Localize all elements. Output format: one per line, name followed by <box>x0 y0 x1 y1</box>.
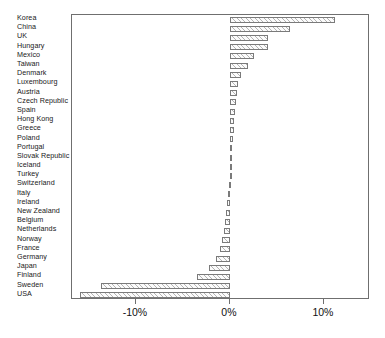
category-label-italy: Italy <box>17 189 30 197</box>
x-tick-label-2: 10% <box>312 306 333 318</box>
category-label-usa: USA <box>17 290 32 298</box>
category-label-germany: Germany <box>17 253 47 261</box>
bar-denmark <box>230 72 241 78</box>
bar-iceland <box>230 164 232 170</box>
plot-area <box>72 15 368 298</box>
category-label-greece: Greece <box>17 124 41 132</box>
bar-japan <box>209 265 230 271</box>
category-label-taiwan: Taiwan <box>17 60 40 68</box>
category-label-mexico: Mexico <box>17 51 40 59</box>
category-label-new-zealand: New Zealand <box>17 207 60 215</box>
bar-uk <box>230 35 269 41</box>
category-label-luxembourg: Luxembourg <box>17 78 57 86</box>
category-label-korea: Korea <box>17 14 36 22</box>
bar-chart-figure: KoreaChinaUKHungaryMexicoTaiwanDenmarkLu… <box>0 0 385 338</box>
plot-frame <box>71 14 369 299</box>
category-label-ireland: Ireland <box>17 198 39 206</box>
bar-turkey <box>230 173 232 179</box>
bar-germany <box>216 256 230 262</box>
category-label-denmark: Denmark <box>17 69 47 77</box>
x-tick-label-0: -10% <box>123 306 148 318</box>
category-label-sweden: Sweden <box>17 281 43 289</box>
x-axis: -10%0%10% <box>71 299 369 338</box>
category-label-finland: Finland <box>17 271 41 279</box>
category-label-turkey: Turkey <box>17 170 39 178</box>
bar-poland <box>230 136 233 142</box>
bar-mexico <box>230 53 254 59</box>
category-label-netherlands: Netherlands <box>17 225 56 233</box>
x-tick-mark-1 <box>229 299 230 304</box>
bar-new-zealand <box>226 210 230 216</box>
bar-greece <box>230 127 234 133</box>
bar-taiwan <box>230 63 248 69</box>
bar-china <box>230 26 290 32</box>
category-label-belgium: Belgium <box>17 216 43 224</box>
category-label-czech-republic: Czech Republic <box>17 97 68 105</box>
bar-usa <box>80 292 230 298</box>
category-label-norway: Norway <box>17 235 42 243</box>
bar-france <box>220 246 230 252</box>
bar-spain <box>230 109 235 115</box>
x-tick-mark-0 <box>135 299 136 304</box>
bar-finland <box>197 274 230 280</box>
category-label-uk: UK <box>17 32 27 40</box>
x-tick-label-1: 0% <box>221 306 236 318</box>
bar-sweden <box>101 283 230 289</box>
bar-luxembourg <box>230 81 238 87</box>
bar-czech-republic <box>230 99 236 105</box>
x-tick-mark-2 <box>323 299 324 304</box>
bar-hungary <box>230 44 268 50</box>
bar-netherlands <box>224 228 230 234</box>
category-label-switzerland: Switzerland <box>17 179 55 187</box>
bar-switzerland <box>229 182 231 188</box>
category-label-japan: Japan <box>17 262 37 270</box>
category-label-poland: Poland <box>17 134 40 142</box>
bar-italy <box>228 191 230 197</box>
category-label-china: China <box>17 23 36 31</box>
bar-korea <box>230 17 335 23</box>
bar-slovak-republic <box>230 155 232 161</box>
category-label-portugal: Portugal <box>17 143 44 151</box>
bar-portugal <box>230 145 232 151</box>
bar-norway <box>222 237 230 243</box>
category-label-austria: Austria <box>17 88 40 96</box>
bar-austria <box>230 90 237 96</box>
category-label-france: France <box>17 244 40 252</box>
category-axis-labels: KoreaChinaUKHungaryMexicoTaiwanDenmarkLu… <box>0 14 69 299</box>
bar-hong-kong <box>230 118 234 124</box>
category-label-spain: Spain <box>17 106 36 114</box>
bar-ireland <box>227 200 230 206</box>
bar-belgium <box>225 219 230 225</box>
category-label-hungary: Hungary <box>17 42 45 50</box>
category-label-hong-kong: Hong Kong <box>17 115 53 123</box>
category-label-slovak-republic: Slovak Republic <box>17 152 69 160</box>
category-label-iceland: Iceland <box>17 161 41 169</box>
